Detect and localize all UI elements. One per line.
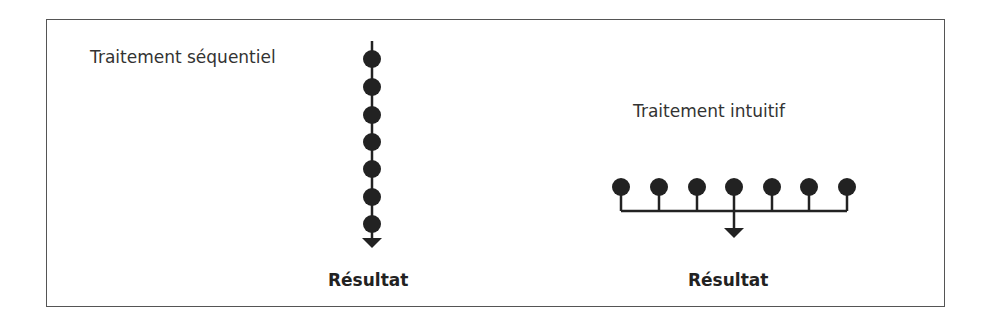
arrow-down-icon: [362, 238, 382, 248]
sequential-node: [363, 78, 381, 96]
intuitive-result-label: Résultat: [688, 270, 768, 290]
sequential-chain: [362, 41, 382, 248]
intuitive-node: [725, 178, 743, 196]
sequential-result-label: Résultat: [328, 270, 408, 290]
sequential-node: [363, 106, 381, 124]
intuitive-node: [612, 178, 630, 196]
sequential-node: [363, 133, 381, 151]
intuitive-parallel: [612, 178, 856, 238]
arrow-down-icon: [724, 228, 744, 238]
intuitive-node: [800, 178, 818, 196]
sequential-node: [363, 215, 381, 233]
processing-diagram: [0, 0, 994, 328]
sequential-node: [363, 50, 381, 68]
intuitive-node: [763, 178, 781, 196]
sequential-node: [363, 160, 381, 178]
intuitive-node: [650, 178, 668, 196]
intuitive-node: [688, 178, 706, 196]
intuitive-node: [838, 178, 856, 196]
sequential-node: [363, 188, 381, 206]
